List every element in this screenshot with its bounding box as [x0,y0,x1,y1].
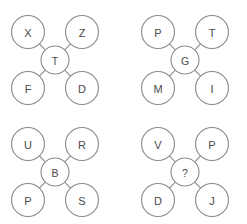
connector-line [39,70,45,76]
center-node-label: G [181,55,189,67]
connector-line [39,182,45,188]
outer-node-label: J [209,195,215,207]
connector-line [169,156,175,162]
center-node-label: T [52,55,59,67]
outer-node-label: P [24,195,31,207]
puzzle-board: XZFDTPTMIGURPSBVPDJ? [0,0,247,224]
connector-line [39,44,45,50]
node-group: URPSB [10,126,106,222]
outer-node-label: D [78,83,86,95]
connector-line [65,156,71,162]
connector-line [195,182,201,188]
connector-line [195,44,201,50]
node-group: XZFDT [10,14,106,110]
node-group: PTMIG [140,14,236,110]
center-node-unknown-label: ? [182,167,188,179]
outer-node-label: M [153,83,162,95]
outer-node-label: V [154,139,162,151]
outer-node-label: P [154,27,161,39]
connector-line [169,44,175,50]
outer-node-label: D [154,195,162,207]
outer-node-label: R [78,139,86,151]
connector-line [169,182,175,188]
connector-line [65,182,71,188]
center-node-label: B [51,167,58,179]
connector-line [195,156,201,162]
node-group: VPDJ? [140,126,236,222]
outer-node-label: I [210,83,213,95]
connector-line [65,70,71,76]
outer-node-label: U [24,139,32,151]
connector-line [195,70,201,76]
connector-line [169,70,175,76]
outer-node-label: Z [79,27,86,39]
connector-line [65,44,71,50]
outer-node-label: P [208,139,215,151]
outer-node-label: S [78,195,85,207]
outer-node-label: T [209,27,216,39]
connector-line [39,156,45,162]
outer-node-label: X [24,27,32,39]
outer-node-label: F [25,83,32,95]
